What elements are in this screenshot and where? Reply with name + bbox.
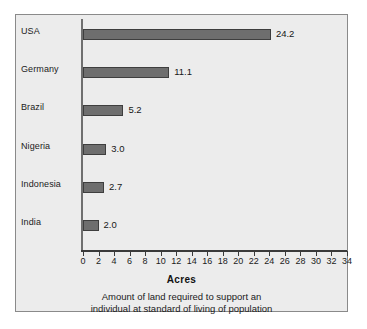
bar: [83, 67, 169, 78]
tick-label: 34: [337, 256, 357, 266]
bar: [83, 182, 104, 193]
x-axis-ticks: 0246810121416182022242628303234: [16, 251, 347, 275]
bar: [83, 105, 123, 116]
caption-line-2: individual at standard of living of popu…: [16, 303, 347, 315]
plot-area: 24.211.15.23.02.72.0 USAGermanyBrazilNig…: [16, 15, 347, 251]
y-axis-line: [81, 19, 83, 251]
chart-figure: 24.211.15.23.02.72.0 USAGermanyBrazilNig…: [15, 14, 348, 312]
category-label: Nigeria: [21, 141, 79, 151]
bar-value-label: 11.1: [174, 66, 192, 77]
bar: [83, 220, 99, 231]
bar-value-label: 3.0: [111, 143, 124, 154]
category-label: Indonesia: [21, 179, 79, 189]
bar-value-label: 5.2: [128, 104, 141, 115]
caption-line-1: Amount of land required to support an: [16, 291, 347, 303]
chart-caption: Amount of land required to support an in…: [16, 291, 347, 315]
bar: [83, 144, 106, 155]
bar: [83, 29, 271, 40]
bar-value-label: 2.0: [104, 219, 117, 230]
category-label: Brazil: [21, 102, 79, 112]
category-label: Germany: [21, 64, 79, 74]
x-axis-title: Acres: [16, 274, 347, 285]
category-label: USA: [21, 26, 79, 36]
category-label: India: [21, 217, 79, 227]
bar-value-label: 2.7: [109, 181, 122, 192]
bar-value-label: 24.2: [276, 28, 295, 39]
